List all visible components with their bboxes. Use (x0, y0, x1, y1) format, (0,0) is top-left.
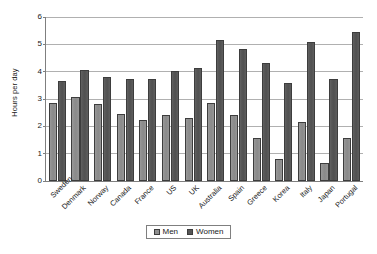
bar-men-us (162, 115, 170, 181)
bar-group (298, 17, 315, 181)
bar-group (49, 17, 66, 181)
bar-group (253, 17, 270, 181)
bar-women-korea (284, 83, 292, 181)
bars-layer (46, 17, 363, 181)
bar-women-norway (103, 77, 111, 181)
bar-group (207, 17, 224, 181)
bar-women-france (148, 79, 156, 181)
bar-women-us (171, 71, 179, 181)
y-axis-title: Hours per day (10, 48, 19, 138)
bar-women-japan (329, 79, 337, 181)
legend-swatch-women (187, 229, 193, 235)
legend-swatch-men (154, 229, 160, 235)
bar-group (71, 17, 88, 181)
bar-women-portugal (352, 32, 360, 181)
bar-women-italy (307, 42, 315, 181)
legend-item-women[interactable]: Women (187, 228, 223, 236)
bar-men-france (139, 120, 147, 181)
legend-label-women: Women (196, 228, 223, 236)
bar-men-japan (320, 163, 328, 181)
bar-group (117, 17, 134, 181)
y-axis-tick-label: 3 (38, 95, 42, 103)
bar-men-australia (207, 103, 215, 181)
bar-group (185, 17, 202, 181)
bar-women-sweden (58, 81, 66, 181)
bar-women-denmark (80, 70, 88, 181)
y-axis-tick-label: 5 (38, 40, 42, 48)
plot-area: 0123456 (45, 17, 363, 182)
x-axis-label-sweden: Sweden (49, 184, 64, 199)
bar-men-spain (230, 115, 238, 181)
y-axis-tick-label: 4 (38, 68, 42, 76)
bar-men-denmark (71, 97, 79, 181)
bar-men-uk (185, 118, 193, 181)
y-axis-tick-label: 6 (38, 13, 42, 21)
bar-men-canada (117, 114, 125, 181)
bar-men-italy (298, 122, 306, 181)
legend-label-men: Men (163, 228, 179, 236)
bar-men-greece (253, 138, 261, 181)
bar-women-greece (262, 63, 270, 181)
bar-group (275, 17, 292, 181)
bar-women-uk (194, 68, 202, 181)
y-axis-tick-label: 1 (38, 150, 42, 158)
bar-group (320, 17, 337, 181)
y-axis-tick-label: 2 (38, 122, 42, 130)
bar-men-korea (275, 159, 283, 181)
bar-men-sweden (49, 103, 57, 181)
bar-men-portugal (343, 138, 351, 181)
chart-legend: MenWomen (146, 225, 232, 239)
bar-men-norway (94, 104, 102, 181)
bar-group (162, 17, 179, 181)
bar-group (230, 17, 247, 181)
bar-group (139, 17, 156, 181)
bar-chart: Hours per day 0123456 SwedenDenmarkNorwa… (0, 0, 377, 254)
bar-women-spain (239, 49, 247, 181)
legend-item-men[interactable]: Men (154, 228, 179, 236)
bar-women-australia (216, 40, 224, 181)
bar-women-canada (126, 79, 134, 181)
y-axis-tick-label: 0 (38, 177, 42, 185)
bar-group (343, 17, 360, 181)
bar-group (94, 17, 111, 181)
